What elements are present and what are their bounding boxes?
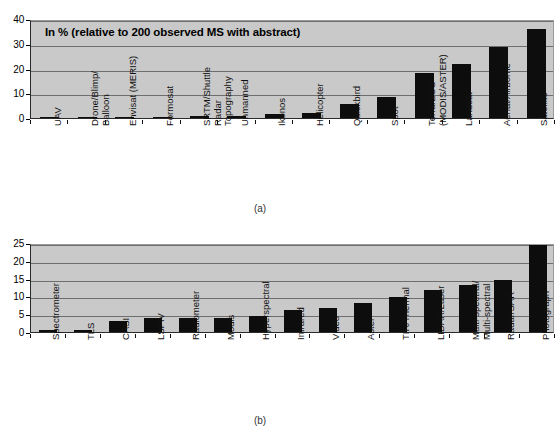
y-axis-tick-label: 15 xyxy=(13,275,24,285)
x-axis-category-label: Spot xyxy=(390,106,401,126)
chart-panel-a: 010203040 In % (relative to 200 observed… xyxy=(0,0,560,215)
x-axis-category-label: Satellite xyxy=(539,92,550,126)
x-axis-category-label: Formosat xyxy=(165,86,176,126)
x-axis-tick-mark xyxy=(67,120,68,124)
x-axis-category-label: Radar/SAR xyxy=(506,292,517,340)
figure-container: 010203040 In % (relative to 200 observed… xyxy=(0,0,560,435)
panel-caption-b: (b) xyxy=(240,415,280,426)
x-axis-tick-mark xyxy=(479,120,480,124)
y-axis-tick-label: 20 xyxy=(13,257,24,267)
y-axis-tick-label: 10 xyxy=(13,292,24,302)
x-axis-tick-mark xyxy=(379,334,380,338)
y-axis-tick-label: 25 xyxy=(13,239,24,249)
x-axis-category-label: Infrared xyxy=(296,307,307,340)
x-axis-tick-mark xyxy=(344,334,345,338)
y-axis-tick-mark xyxy=(26,244,30,245)
x-axis-category-label: SRTM/ShuttleRadarTopography xyxy=(202,67,234,126)
x-axis-tick-mark xyxy=(554,334,555,338)
x-axis-tick-mark xyxy=(519,334,520,338)
x-axis-category-label: Ikonos xyxy=(277,98,288,126)
y-axis-tick-mark xyxy=(26,280,30,281)
x-axis-tick-mark xyxy=(404,120,405,124)
x-axis-category-label: Envisat (MERIS) xyxy=(128,56,139,126)
x-axis-tick-mark xyxy=(309,334,310,338)
x-axis-category-label: Terra/EOS(MODIS/ASTER) xyxy=(427,54,448,126)
x-axis-category-label: LIDAR/Laser xyxy=(436,286,447,340)
y-axis-tick-mark xyxy=(26,333,30,334)
y-axis-tick-label: 5 xyxy=(19,310,24,320)
y-axis-tick-label: 0 xyxy=(19,114,24,124)
x-axis-category-label: Modis xyxy=(226,315,237,340)
y-axis-tick-mark xyxy=(26,297,30,298)
x-axis-category-label: TIR/Thermal xyxy=(401,287,412,340)
y-axis-tick-label: 40 xyxy=(13,15,24,25)
y-axis-tick-mark xyxy=(26,119,30,120)
x-axis-tick-mark xyxy=(255,120,256,124)
y-axis-tick-mark xyxy=(26,315,30,316)
gridline xyxy=(31,245,553,246)
x-axis-category-label: LSPIV xyxy=(156,313,167,340)
gridline xyxy=(31,21,553,22)
x-axis-tick-mark xyxy=(205,334,206,338)
x-axis-tick-mark xyxy=(329,120,330,124)
panel-caption-a: (a) xyxy=(240,203,280,214)
x-axis-category-label: UAV xyxy=(53,107,64,126)
x-axis-category-label: Multi-spectral/Multi-spectral xyxy=(471,281,492,340)
x-axis-tick-mark xyxy=(30,120,31,124)
chart-panel-b: 0510152025 SpectrometerTLSCASILSPIVRadio… xyxy=(0,222,560,435)
x-axis-category-label: Landsat xyxy=(464,92,475,126)
x-axis-category-label: Radiometer xyxy=(191,291,202,340)
y-axis-tick-mark xyxy=(26,20,30,21)
chart-title-a: In % (relative to 200 observed MS with a… xyxy=(45,26,300,38)
x-axis-category-label: CASI xyxy=(121,318,132,340)
x-axis-tick-mark xyxy=(554,120,555,124)
y-axis-tick-mark xyxy=(26,262,30,263)
y-axis-tick-label: 30 xyxy=(13,40,24,50)
y-axis-tick-mark xyxy=(26,45,30,46)
x-axis-tick-mark xyxy=(100,334,101,338)
x-axis-category-label: Photograph xyxy=(541,291,552,340)
x-axis-tick-mark xyxy=(180,120,181,124)
x-axis-category-label: TLS xyxy=(86,323,97,340)
x-axis-tick-mark xyxy=(135,334,136,338)
x-axis-category-label: Drone/Blimp/Balloon xyxy=(90,71,111,126)
x-axis-category-label: Spectrometer xyxy=(51,283,62,340)
x-axis-tick-mark xyxy=(292,120,293,124)
x-axis-category-label: Unmanned xyxy=(240,80,251,126)
y-axis-tick-label: 20 xyxy=(13,65,24,75)
x-axis-tick-mark xyxy=(414,334,415,338)
y-axis-tick-mark xyxy=(26,94,30,95)
gridline xyxy=(31,263,553,264)
x-axis-category-label: Hyperspectral xyxy=(261,281,272,340)
gridline xyxy=(31,46,553,47)
y-axis-labels-b: 0510152025 xyxy=(0,222,28,435)
x-axis-tick-mark xyxy=(240,334,241,338)
x-axis-tick-mark xyxy=(449,334,450,338)
x-axis-tick-mark xyxy=(65,334,66,338)
y-axis-tick-label: 10 xyxy=(13,89,24,99)
y-axis-tick-mark xyxy=(26,70,30,71)
y-axis-labels-a: 010203040 xyxy=(0,0,28,215)
x-axis-tick-mark xyxy=(170,334,171,338)
y-axis-tick-label: 0 xyxy=(19,328,24,338)
x-axis-tick-mark xyxy=(30,334,31,338)
x-axis-category-label: Aster xyxy=(366,318,377,340)
x-axis-category-label: Quickbird xyxy=(352,86,363,126)
x-axis-tick-mark xyxy=(275,334,276,338)
x-axis-tick-mark xyxy=(367,120,368,124)
x-axis-tick-mark xyxy=(142,120,143,124)
x-axis-category-label: Video xyxy=(331,316,342,340)
x-axis-category-label: Aerial/Airborne xyxy=(502,63,513,126)
x-axis-category-label: Helicopter xyxy=(315,83,326,126)
x-axis-tick-mark xyxy=(517,120,518,124)
